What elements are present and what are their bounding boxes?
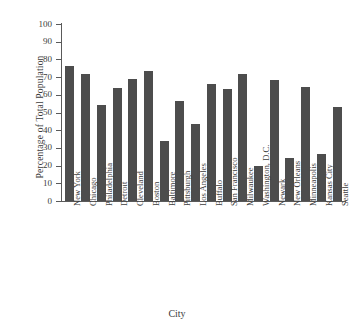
x-axis-tick-label: Chicago xyxy=(89,177,98,206)
y-axis-tick-label: 30 xyxy=(12,143,52,152)
x-axis-tick-label: Seattle xyxy=(341,183,350,206)
x-axis-tick-label: New York xyxy=(73,171,82,206)
x-axis-tick-label: New Orleans xyxy=(293,161,302,206)
x-axis-tick-label: Kansas City xyxy=(325,164,334,206)
y-axis-tick-label: 40 xyxy=(12,126,52,135)
x-axis-tick-label: Cleveland xyxy=(136,171,145,206)
y-axis-tick-label: 100 xyxy=(12,20,52,29)
x-axis-tick-label: Detroit xyxy=(120,182,129,206)
bar-chart-figure: Percentage of Total Population 010203040… xyxy=(0,0,354,335)
y-axis-tick-label: 0 xyxy=(12,197,52,206)
y-axis-tick xyxy=(56,201,62,202)
x-axis-tick-label: Los Angeles xyxy=(199,163,208,206)
y-axis-tick-label: 80 xyxy=(12,55,52,64)
y-axis-tick-label: 50 xyxy=(12,108,52,117)
x-axis-tick-label: Philadelphia xyxy=(105,163,114,206)
x-axis-title: City xyxy=(0,308,354,319)
x-axis-tick-label: Newark xyxy=(278,179,287,206)
y-axis-tick-label: 10 xyxy=(12,179,52,188)
x-axis-tick-label: Washington, D.C. xyxy=(262,145,271,206)
x-axis-tick-label: San Francisco xyxy=(230,158,239,206)
y-axis-tick-label: 70 xyxy=(12,73,52,82)
x-axis-tick-label: Pittsburgh xyxy=(183,171,192,206)
x-axis-tick-label: Baltimore xyxy=(168,172,177,206)
x-axis-tick-label: Boston xyxy=(152,182,161,206)
y-axis-tick-label: 60 xyxy=(12,90,52,99)
x-axis-tick-label: Buffalo xyxy=(215,180,224,206)
y-axis-tick-label: 90 xyxy=(12,37,52,46)
x-axis-tick-label: Minneapolis xyxy=(309,163,318,206)
x-axis-tick-label: Milwaukee xyxy=(246,167,255,206)
y-axis-tick-label: 20 xyxy=(12,161,52,170)
